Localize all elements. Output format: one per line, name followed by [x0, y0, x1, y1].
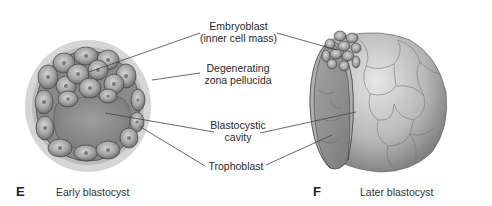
caption-early-blastocyst: Early blastocyst [56, 186, 130, 198]
label-zona-line2: zona pellucida [203, 74, 273, 86]
label-trophoblast-text: Trophoblast [205, 160, 267, 172]
panel-letter-e: E [16, 184, 25, 199]
later-blastocyst-drawing [310, 31, 447, 172]
label-cavity-line1: Blastocystic [207, 119, 269, 131]
panel-letter-f: F [313, 184, 321, 199]
early-blastocyst-drawing [25, 40, 151, 172]
label-cavity-line2: cavity [207, 131, 269, 143]
blastocyst-figure: Embryoblast (inner cell mass) Degenerati… [0, 0, 492, 206]
label-embryoblast-line2: (inner cell mass) [200, 32, 277, 44]
label-zona-line1: Degenerating [203, 62, 273, 74]
label-blastocystic-cavity: Blastocystic cavity [207, 119, 269, 143]
label-trophoblast: Trophoblast [205, 160, 267, 172]
label-embryoblast-line1: Embryoblast [200, 20, 277, 32]
caption-later-blastocyst: Later blastocyst [360, 186, 434, 198]
label-zona-pellucida: Degenerating zona pellucida [203, 62, 273, 86]
label-embryoblast: Embryoblast (inner cell mass) [200, 20, 277, 44]
